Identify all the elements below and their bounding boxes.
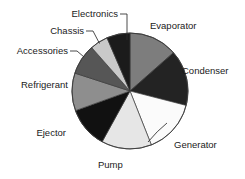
pie-slices	[72, 33, 188, 149]
pie-label-ejector: Ejector	[20, 128, 66, 138]
pie-label-accessories: Accessories	[2, 46, 68, 56]
leader-line-chassis	[86, 31, 100, 44]
pie-label-chassis: Chassis	[28, 26, 84, 36]
pie-label-condenser: Condenser	[182, 66, 228, 76]
pie-label-pump: Pump	[98, 160, 123, 170]
pie-label-evaporator: Evaporator	[150, 21, 196, 31]
pie-label-generator: Generator	[174, 140, 217, 150]
leader-line-accessories	[70, 51, 84, 57]
pie-label-electronics: Electronics	[46, 9, 118, 19]
pie-chart-figure: Electronics Chassis Accessories Refriger…	[0, 0, 245, 179]
pie-label-refrigerant: Refrigerant	[0, 80, 68, 90]
